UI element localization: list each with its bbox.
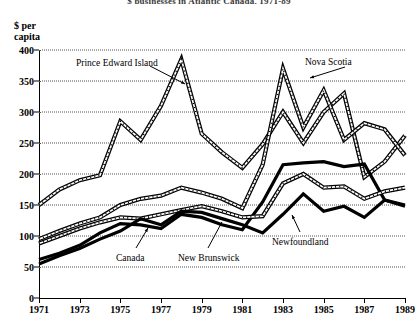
y-tick-label: 150 [19, 200, 34, 211]
annotation-canada: Canada [116, 253, 145, 263]
x-tick-label: 1977 [151, 304, 171, 315]
x-tick-mark [80, 298, 81, 303]
x-tick-mark [202, 298, 203, 303]
annotation-newfoundland: Newfoundland [272, 237, 328, 247]
y-axis-label: $ per capita [14, 20, 40, 42]
annotation-nova-scotia: Nova Scotia [305, 57, 352, 67]
y-tick-label: 250 [19, 138, 34, 149]
y-tick-label: 350 [19, 76, 34, 87]
x-tick-mark [120, 298, 121, 303]
y-tick-label: 50 [24, 262, 34, 273]
x-tick-label: 1971 [29, 304, 49, 315]
x-tick-label: 1983 [273, 304, 293, 315]
series-prince-edward-island [39, 59, 405, 205]
y-tick-label: 100 [19, 231, 34, 242]
series-outline [39, 59, 405, 205]
x-tick-label: 1989 [395, 304, 415, 315]
x-tick-label: 1973 [70, 304, 90, 315]
chart-title: $ businesses in Atlantic Canada, 1971-89 [0, 0, 418, 4]
series-hatch [39, 59, 405, 205]
x-tick-label: 1979 [192, 304, 212, 315]
y-axis-label-line2: capita [14, 31, 40, 42]
x-tick-mark [39, 298, 40, 303]
series-fill [39, 59, 405, 205]
y-axis-label-line1: $ per [14, 20, 40, 31]
x-tick-label: 1987 [354, 304, 374, 315]
x-tick-mark [242, 298, 243, 303]
y-tick-label: 200 [19, 169, 34, 180]
x-tick-mark [405, 298, 406, 303]
annotation-prince-edward-island: Prince Edward Island [76, 58, 158, 68]
x-tick-mark [283, 298, 284, 303]
y-tick-label: 0 [29, 293, 34, 304]
x-tick-label: 1975 [110, 304, 130, 315]
y-tick-label: 400 [19, 45, 34, 56]
annotation-new-brunswick: New Brunswick [178, 253, 239, 263]
x-tick-label: 1981 [232, 304, 252, 315]
x-tick-mark [364, 298, 365, 303]
y-tick-label: 300 [19, 107, 34, 118]
x-tick-label: 1985 [314, 304, 334, 315]
x-tick-mark [324, 298, 325, 303]
chart-container: $ businesses in Atlantic Canada, 1971-89… [0, 0, 418, 324]
x-tick-mark [161, 298, 162, 303]
x-axis-line [39, 298, 405, 299]
